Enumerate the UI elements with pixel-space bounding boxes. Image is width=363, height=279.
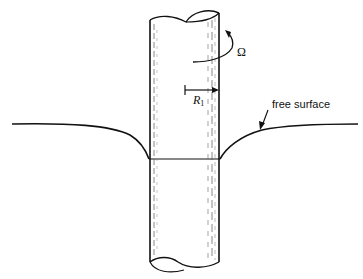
rotation-arrow-icon: [193, 30, 233, 62]
free-surface-right: [220, 124, 358, 159]
omega-label: Ω: [237, 45, 246, 59]
rotating-cylinder-diagram: Ω R1 free surface: [0, 0, 363, 279]
radius-label: R1: [192, 93, 204, 108]
free-surface-label: free surface: [272, 98, 330, 110]
pointer-arrow-icon: [259, 110, 268, 130]
cylinder: [150, 11, 219, 272]
radius-dimension: [185, 85, 219, 95]
free-surface-left: [12, 124, 149, 159]
